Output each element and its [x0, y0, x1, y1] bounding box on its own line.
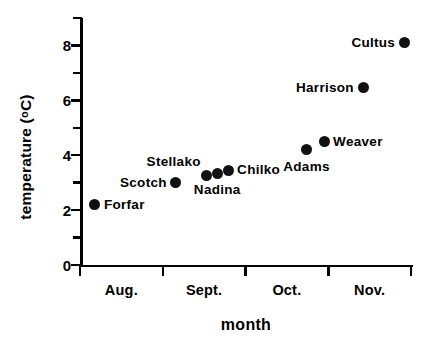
x-axis-tick	[410, 265, 413, 276]
y-axis-tick-minor	[73, 236, 82, 239]
y-axis-tick-major	[71, 99, 82, 102]
x-axis-tick-label: Aug.	[78, 282, 164, 298]
y-axis-tick-label: 6	[41, 93, 71, 108]
data-point-label: Adams	[283, 160, 330, 174]
data-point	[301, 144, 312, 155]
y-axis-title-main: temperature (	[17, 118, 34, 220]
y-axis-tick-major	[71, 209, 82, 212]
x-axis-tick	[162, 265, 165, 276]
data-point-label: Forfar	[104, 198, 145, 212]
scatter-chart-figure: temperature (oC) month 02468Aug.Sept.Oct…	[0, 0, 430, 345]
data-point-label: Chilko	[237, 163, 280, 177]
y-axis-tick-major	[71, 154, 82, 157]
y-axis-title: temperature (oC)	[17, 37, 35, 277]
data-point-label: Cultus	[351, 36, 395, 50]
y-axis-tick-major	[71, 44, 82, 47]
y-axis-title-unit: C)	[17, 94, 34, 111]
data-point-label: Nadina	[194, 183, 241, 197]
data-point-label: Scotch	[120, 176, 167, 190]
x-axis-tick-label: Sept.	[161, 282, 247, 298]
x-axis-tick	[244, 265, 247, 276]
x-axis-tick	[327, 265, 330, 276]
data-point	[223, 165, 234, 176]
y-axis-tick-minor	[73, 17, 82, 20]
data-point	[201, 170, 212, 181]
y-axis-tick-minor	[73, 181, 82, 184]
data-point	[89, 199, 100, 210]
data-point	[399, 37, 410, 48]
data-point-label: Harrison	[296, 81, 354, 95]
plot-area: 02468Aug.Sept.Oct.Nov.ForfarScotchStella…	[80, 18, 412, 266]
data-point-label: Stellako	[147, 155, 201, 169]
data-point	[319, 136, 330, 147]
y-axis-spine	[80, 18, 83, 267]
cut-off-caption	[6, 341, 426, 345]
x-axis-tick-label: Nov.	[327, 282, 413, 298]
data-point-label: Weaver	[333, 135, 383, 149]
x-axis-title: month	[80, 316, 412, 334]
y-axis-tick-minor	[73, 127, 82, 130]
y-axis-tick-label: 4	[41, 148, 71, 163]
data-point	[212, 168, 223, 179]
degree-symbol: o	[18, 111, 30, 118]
x-axis-tick-label: Oct.	[244, 282, 330, 298]
y-axis-tick-label: 0	[41, 258, 71, 273]
y-axis-tick-label: 2	[41, 203, 71, 218]
data-point	[170, 177, 181, 188]
data-point	[358, 82, 369, 93]
y-axis-tick-minor	[73, 72, 82, 75]
x-axis-tick	[79, 265, 82, 276]
y-axis-tick-label: 8	[41, 38, 71, 53]
